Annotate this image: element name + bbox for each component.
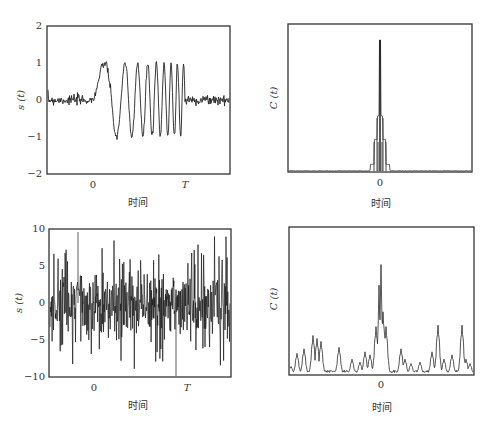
chart-bottom-right-svg: 0 时间 C (t) [0, 0, 491, 425]
br-xtick-0: 0 [378, 379, 384, 390]
br-y-label: C (t) [268, 288, 279, 311]
br-correlation-trace [290, 265, 473, 373]
br-x-label: 时间 [372, 401, 392, 413]
